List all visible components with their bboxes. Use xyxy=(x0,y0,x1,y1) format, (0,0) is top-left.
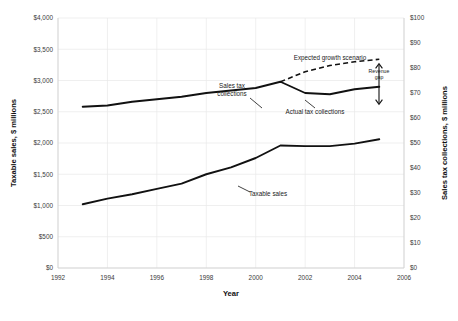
left-axis-tick-label: $3,000 xyxy=(33,77,53,84)
right-axis-tick-label: $90 xyxy=(410,39,421,46)
series-line-expected-growth-scenario xyxy=(280,59,379,82)
left-axis-tick-label: $1,500 xyxy=(33,171,53,178)
x-axis-tick-label: 1992 xyxy=(51,274,66,281)
left-axis-tick-label: $3,500 xyxy=(33,46,53,53)
right-axis-tick-label: $40 xyxy=(410,164,421,171)
left-axis-tick-label: $0 xyxy=(46,264,54,271)
right-axis-tick-labels: $0$10$20$30$40$50$60$70$80$90$100 xyxy=(410,14,425,271)
right-axis-title: Sales tax collections, $ millions xyxy=(440,86,449,200)
left-axis-tick-label: $1,000 xyxy=(33,202,53,209)
x-axis-tick-labels: 19921994199619982000200220042006 xyxy=(51,274,412,281)
actual-tax-collections-label: Actual tax collections xyxy=(286,108,345,115)
right-axis-tick-label: $70 xyxy=(410,89,421,96)
x-axis-title: Year xyxy=(223,289,239,298)
sales-tax-revenue-gap-chart: $0$500$1,000$1,500$2,000$2,500$3,000$3,5… xyxy=(0,0,458,321)
left-axis-tick-labels: $0$500$1,000$1,500$2,000$2,500$3,000$3,5… xyxy=(33,14,53,271)
left-axis-title: Taxable sales, $ millions xyxy=(9,99,18,187)
right-axis-tick-label: $0 xyxy=(410,264,418,271)
right-axis-tick-label: $100 xyxy=(410,14,425,21)
right-axis-tick-label: $60 xyxy=(410,114,421,121)
sales-tax-collections-label: Sales taxcollections xyxy=(217,82,246,97)
left-axis-tick-label: $4,000 xyxy=(33,14,53,21)
left-axis-tick-label: $2,500 xyxy=(33,108,53,115)
left-axis-tick-label: $500 xyxy=(39,233,54,240)
revenue-gap-label: Revenuegap xyxy=(369,68,390,80)
x-axis-tick-label: 2002 xyxy=(298,274,313,281)
left-axis-tick-label: $2,000 xyxy=(33,139,53,146)
right-axis-tick-label: $50 xyxy=(410,139,421,146)
series-line-taxable-sales xyxy=(83,139,380,204)
chart-container: $0$500$1,000$1,500$2,000$2,500$3,000$3,5… xyxy=(0,0,458,321)
x-axis-tick-label: 2004 xyxy=(347,274,362,281)
x-axis-tick-label: 1998 xyxy=(199,274,214,281)
series-markers-taxable-sales xyxy=(83,1,380,201)
right-axis-tick-label: $20 xyxy=(410,214,421,221)
x-axis-tick-label: 2006 xyxy=(397,274,412,281)
right-axis-tick-label: $80 xyxy=(410,64,421,71)
taxable-sales-label: Taxable sales xyxy=(249,190,287,197)
right-axis-tick-label: $30 xyxy=(410,189,421,196)
x-axis-tick-label: 1994 xyxy=(100,274,115,281)
expected-growth-scenario-label: Expected growth scenario xyxy=(294,54,367,62)
x-axis-tick-label: 2000 xyxy=(249,274,264,281)
right-axis-tick-label: $10 xyxy=(410,239,421,246)
x-axis-tick-label: 1996 xyxy=(150,274,165,281)
chart-annotations: Sales taxcollectionsActual tax collectio… xyxy=(217,54,389,197)
